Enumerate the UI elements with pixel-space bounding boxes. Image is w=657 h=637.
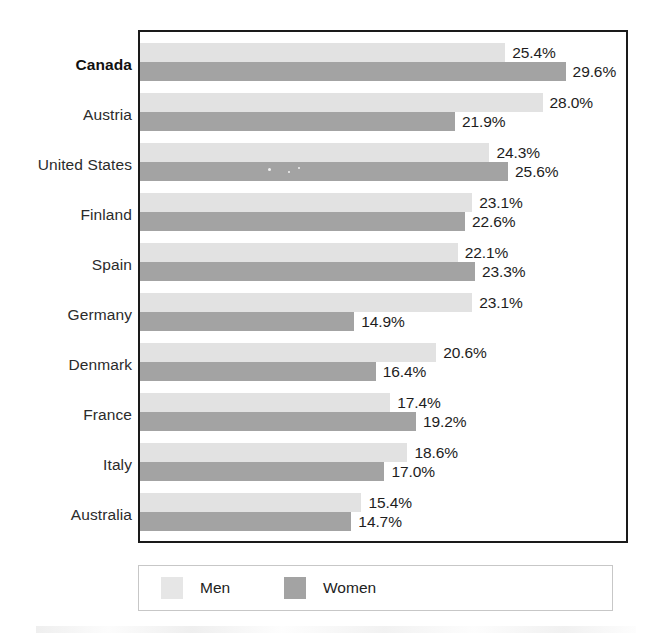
category-label-france: France	[0, 406, 132, 424]
scan-speckle	[268, 168, 271, 171]
category-label-spain: Spain	[0, 256, 132, 274]
category-label-italy: Italy	[0, 456, 132, 474]
bar-spain-women	[140, 262, 475, 281]
bar-canada-men	[140, 43, 505, 62]
bar-spain-men	[140, 243, 458, 262]
bar-value-austria-women: 21.9%	[455, 112, 505, 131]
bar-value-spain-women: 23.3%	[475, 262, 525, 281]
bar-value-germany-women: 14.9%	[354, 312, 404, 331]
bar-value-canada-men: 25.4%	[505, 43, 555, 62]
bar-australia-women	[140, 512, 351, 531]
category-label-finland: Finland	[0, 206, 132, 224]
bar-italy-women	[140, 462, 384, 481]
bar-denmark-men	[140, 343, 436, 362]
legend-swatch-men-icon	[161, 577, 183, 599]
bar-value-denmark-women: 16.4%	[376, 362, 426, 381]
plot-inner: 25.4%29.6%28.0%21.9%24.3%25.6%23.1%22.6%…	[140, 32, 626, 541]
bar-value-spain-men: 22.1%	[458, 243, 508, 262]
bar-finland-men	[140, 193, 472, 212]
category-label-canada: Canada	[0, 56, 132, 74]
category-label-denmark: Denmark	[0, 356, 132, 374]
bar-germany-men	[140, 293, 472, 312]
bar-value-united-states-women: 25.6%	[508, 162, 558, 181]
bar-germany-women	[140, 312, 354, 331]
bar-value-finland-women: 22.6%	[465, 212, 515, 231]
bar-value-canada-women: 29.6%	[566, 62, 616, 81]
bar-austria-women	[140, 112, 455, 131]
bar-value-italy-women: 17.0%	[384, 462, 434, 481]
bar-value-france-men: 17.4%	[390, 393, 440, 412]
category-label-united-states: United States	[0, 156, 132, 174]
bar-value-australia-men: 15.4%	[361, 493, 411, 512]
bar-value-france-women: 19.2%	[416, 412, 466, 431]
bar-canada-women	[140, 62, 566, 81]
scan-speckle	[288, 171, 290, 173]
legend-item-men[interactable]: Men	[161, 577, 230, 599]
legend-item-women[interactable]: Women	[284, 577, 376, 599]
grouped-bar-chart: CanadaAustriaUnited StatesFinlandSpainGe…	[0, 0, 657, 637]
bar-value-denmark-men: 20.6%	[436, 343, 486, 362]
bar-value-germany-men: 23.1%	[472, 293, 522, 312]
bar-value-united-states-men: 24.3%	[489, 143, 539, 162]
category-label-germany: Germany	[0, 306, 132, 324]
bar-finland-women	[140, 212, 465, 231]
scan-artifact-strip	[36, 626, 636, 633]
plot-area: 25.4%29.6%28.0%21.9%24.3%25.6%23.1%22.6%…	[138, 30, 628, 543]
scan-speckle	[298, 167, 300, 169]
bar-value-australia-women: 14.7%	[351, 512, 401, 531]
category-axis-labels: CanadaAustriaUnited StatesFinlandSpainGe…	[0, 30, 132, 543]
bar-france-women	[140, 412, 416, 431]
bar-value-italy-men: 18.6%	[407, 443, 457, 462]
legend-label-men: Men	[200, 579, 230, 597]
bar-united-states-women	[140, 162, 508, 181]
bar-value-finland-men: 23.1%	[472, 193, 522, 212]
bar-united-states-men	[140, 143, 489, 162]
legend-swatch-women-icon	[284, 577, 306, 599]
category-label-australia: Australia	[0, 506, 132, 524]
bar-denmark-women	[140, 362, 376, 381]
category-label-austria: Austria	[0, 106, 132, 124]
bar-australia-men	[140, 493, 361, 512]
chart-legend: MenWomen	[138, 565, 613, 611]
bar-italy-men	[140, 443, 407, 462]
bar-value-austria-men: 28.0%	[543, 93, 593, 112]
bar-france-men	[140, 393, 390, 412]
bar-austria-men	[140, 93, 543, 112]
legend-label-women: Women	[323, 579, 376, 597]
